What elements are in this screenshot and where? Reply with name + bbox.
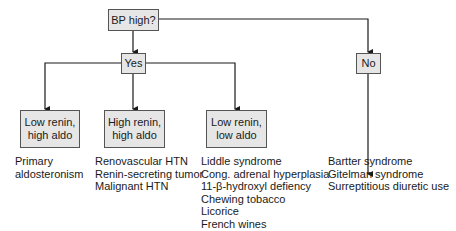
outcome-list-high-renin: Renovascular HTN Renin-secreting tumor M… [95,155,203,193]
node-no-label: No [361,57,375,70]
outcome-item: Chewing tobacco [201,193,329,206]
node-no: No [356,53,381,74]
node-high-renin-high-aldo: High renin, high aldo [104,110,165,148]
outcome-item: Renovascular HTN [95,155,203,168]
node-low-renin-low-aldo: Low renin, low aldo [206,110,267,148]
outcome-list-primary: Primary aldosteronism [15,155,83,180]
outcome-item: Renin-secreting tumor [95,168,203,181]
node-line: high aldo [112,129,157,142]
outcome-item: Surreptitious diuretic use [328,180,449,193]
outcome-item: Liddle syndrome [201,155,329,168]
outcome-item: Gitelman syndrome [328,168,449,181]
outcome-item: Primary [15,155,83,168]
node-bp-high-label: BP high? [111,14,155,27]
node-bp-high: BP high? [108,9,159,31]
node-yes: Yes [121,53,146,74]
outcome-item: aldosteronism [15,168,83,181]
outcome-list-low-renin-low-aldo: Liddle syndrome Cong. adrenal hyperplasi… [201,155,329,230]
outcome-item: Cong. adrenal hyperplasia [201,168,329,181]
node-line: High renin, [108,116,161,129]
outcome-item: Licorice [201,205,329,218]
outcome-item: Malignant HTN [95,180,203,193]
node-line: high aldo [28,129,73,142]
outcome-item: 11-β-hydroxyl defiency [201,180,329,193]
node-line: low aldo [216,129,256,142]
node-yes-label: Yes [125,57,143,70]
outcome-item: French wines [201,218,329,231]
outcome-list-no: Bartter syndrome Gitelman syndrome Surre… [328,155,449,193]
node-line: Low renin, [25,116,76,129]
node-line: Low renin, [211,116,262,129]
outcome-item: Bartter syndrome [328,155,449,168]
node-low-renin-high-aldo: Low renin, high aldo [20,110,80,148]
